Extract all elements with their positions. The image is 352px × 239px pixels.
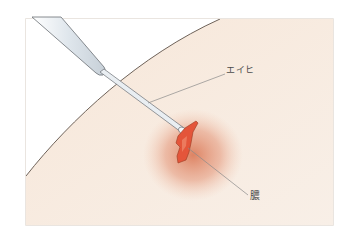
illustration: エイヒ 膿 bbox=[0, 0, 352, 239]
instrument-label: エイヒ bbox=[226, 66, 255, 75]
pus-label: 膿 bbox=[250, 191, 260, 201]
illustration-canvas bbox=[0, 0, 352, 239]
